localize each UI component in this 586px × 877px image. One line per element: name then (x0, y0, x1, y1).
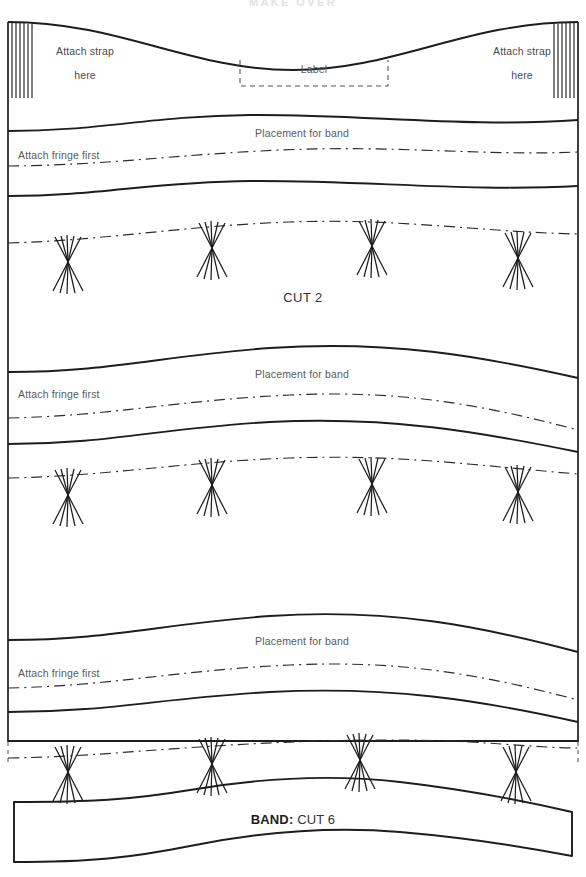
attach-strap-right-line1: Attach strap (493, 45, 551, 57)
fringe-row-3 (53, 733, 531, 804)
fringe-placement-line-1 (8, 221, 578, 243)
fringe-row-1 (53, 219, 533, 294)
attach-strap-right-line2: here (511, 69, 533, 81)
strap-hatching-right (554, 23, 574, 98)
placement-for-band-3: Placement for band (255, 635, 349, 647)
attach-fringe-first-1: Attach fringe first (18, 149, 100, 161)
band-instruction: BAND: CUT 6 (251, 812, 335, 827)
attach-strap-left-line2: here (74, 69, 96, 81)
attach-strap-left-line1: Attach strap (56, 45, 114, 57)
cut-line-2-bottom (8, 421, 578, 452)
fringe-row-2 (53, 457, 533, 527)
band-instruction-name: BAND: (251, 812, 294, 827)
attach-fringe-first-3: Attach fringe first (18, 667, 100, 679)
placement-for-band-1: Placement for band (255, 127, 349, 139)
cut-line-1-bottom (8, 181, 578, 196)
label-box-text: Label (301, 63, 327, 75)
cut-line-3-bottom (8, 691, 578, 722)
pattern-sheet: MAKE OVER (0, 0, 586, 877)
fringe-placement-line-2 (8, 457, 578, 478)
fringe-placement-line-3 (8, 740, 578, 758)
attach-fringe-first-2: Attach fringe first (18, 388, 100, 400)
bottom-dashed-boundary (8, 742, 578, 764)
band-instruction-cut: CUT 6 (293, 812, 335, 827)
cut-2-instruction: CUT 2 (283, 290, 322, 305)
strap-hatching-left (12, 23, 32, 98)
placement-for-band-2: Placement for band (255, 368, 349, 380)
